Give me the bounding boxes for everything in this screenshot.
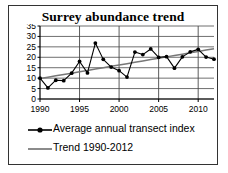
chart-legend: Average annual transect index Trend 1990… — [9, 118, 217, 156]
series-average-annual-transect-index — [40, 43, 214, 88]
svg-text:1990: 1990 — [31, 104, 50, 114]
grid-lines — [40, 26, 214, 99]
figure-frame: Surrey abundance trend 05101520253035 19… — [8, 5, 218, 165]
svg-text:2010: 2010 — [189, 104, 208, 114]
svg-text:1995: 1995 — [70, 104, 89, 114]
svg-text:15: 15 — [27, 63, 37, 73]
y-axis-tick-labels: 05101520253035 — [27, 24, 37, 104]
legend-label-trend: Trend 1990-2012 — [53, 141, 133, 153]
legend-marker-line-icon — [27, 141, 53, 153]
chart-plot-area: 05101520253035 19901995200020052010 — [9, 24, 219, 120]
series-data-point-markers — [38, 41, 216, 90]
svg-text:30: 30 — [27, 31, 37, 41]
legend-label-index: Average annual transect index — [53, 122, 195, 134]
x-axis-tick-labels: 19901995200020052010 — [31, 104, 208, 114]
svg-text:0: 0 — [31, 94, 36, 104]
svg-text:2005: 2005 — [149, 104, 168, 114]
chart-title: Surrey abundance trend — [9, 9, 217, 25]
legend-item-index: Average annual transect index — [9, 118, 217, 137]
svg-text:10: 10 — [27, 73, 37, 83]
svg-text:5: 5 — [31, 84, 36, 94]
svg-text:35: 35 — [27, 24, 37, 31]
svg-text:20: 20 — [27, 52, 37, 62]
axis-tick-marks — [38, 26, 199, 102]
legend-item-trend: Trend 1990-2012 — [9, 137, 217, 156]
legend-marker-line-with-dot-icon — [27, 122, 53, 134]
axis-lines — [40, 26, 214, 99]
svg-text:25: 25 — [27, 42, 37, 52]
svg-text:2000: 2000 — [110, 104, 129, 114]
